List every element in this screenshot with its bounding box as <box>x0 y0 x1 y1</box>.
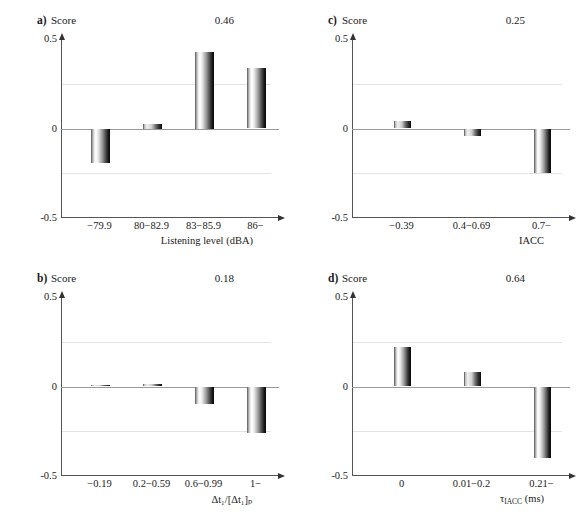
panel-b-bar-0 <box>91 385 110 387</box>
panel-b-ylabel: Score <box>51 272 76 284</box>
figure-container: a) Score 0.46 0.5 0 -0.5 −79.9 80−82.9 8… <box>0 0 582 521</box>
panel-b-ytick-0: 0.5 <box>44 292 57 303</box>
x-axis-arrow-icon <box>278 473 285 479</box>
panel-c-bar-2 <box>534 129 551 174</box>
x-axis-arrow-icon <box>569 215 576 221</box>
panel-c-x-axis <box>352 217 570 218</box>
panel-d-ylabel: Score <box>342 272 367 284</box>
panel-c-xtick-0: −0.39 <box>389 221 413 232</box>
panel-a-xtick-3: 86− <box>247 221 263 232</box>
panel-c-bar-1 <box>464 129 481 136</box>
y-axis-arrow-icon <box>59 33 65 40</box>
panel-a-letter: a) <box>37 14 47 26</box>
panel-b-bar-3 <box>247 387 266 434</box>
panel-c-ylabel: Score <box>342 14 367 26</box>
panel-a-gridline-neg025 <box>61 173 271 174</box>
panel-d-ytick-1: 0 <box>343 381 348 392</box>
panel-c-gridline-025 <box>352 84 562 85</box>
panel-d-x-axis <box>352 475 570 476</box>
panel-b: b) Score 0.18 0.5 0 -0.5 −0.19 0.2−0.59 … <box>0 258 291 518</box>
panel-c-letter: c) <box>328 14 337 26</box>
panel-a: a) Score 0.46 0.5 0 -0.5 −79.9 80−82.9 8… <box>0 0 291 260</box>
panel-a-bar-0 <box>91 129 110 163</box>
y-axis-arrow-icon <box>350 291 356 298</box>
x-axis-arrow-icon <box>569 473 576 479</box>
panel-b-bar-1 <box>143 384 162 387</box>
panel-a-ytick-0: 0.5 <box>44 34 57 45</box>
panel-d-plot: 0.5 0 -0.5 0 0.01−0.2 0.21− τIACC (ms) <box>352 297 552 476</box>
panel-c-xtick-2: 0.7− <box>532 221 551 232</box>
panel-c-header: c) Score 0.25 <box>291 0 582 22</box>
panel-a-xtick-1: 80−82.9 <box>134 221 169 232</box>
panel-c-plot: 0.5 0 -0.5 −0.39 0.4−0.69 0.7− IACC <box>352 39 552 218</box>
panel-d-xlabel: τIACC (ms) <box>500 493 544 504</box>
panel-d-gridline-025 <box>352 342 562 343</box>
x-axis-arrow-icon <box>278 215 285 221</box>
panel-b-letter: b) <box>37 272 47 284</box>
panel-c-xtick-1: 0.4−0.69 <box>453 221 490 232</box>
panel-a-ylabel: Score <box>51 14 76 26</box>
panel-b-gridline-025 <box>61 342 271 343</box>
panel-d-bar-0 <box>394 347 411 386</box>
panel-c-ytick-2: -0.5 <box>331 213 348 224</box>
panel-d-bar-1 <box>464 372 481 386</box>
panel-a-plot: 0.5 0 -0.5 −79.9 80−82.9 83−85.9 86− Lis… <box>61 39 261 218</box>
panel-a-ytick-1: 0 <box>52 123 57 134</box>
panel-b-xtick-2: 0.6−0.99 <box>185 479 222 490</box>
panel-c: c) Score 0.25 0.5 0 -0.5 −0.39 0.4−0.69 … <box>291 0 582 260</box>
panel-d-header: d) Score 0.64 <box>291 258 582 280</box>
panel-b-ytick-1: 0 <box>52 381 57 392</box>
panel-c-annotation: 0.25 <box>506 14 525 26</box>
panel-b-xlabel: Δt₁/[Δt₁]ₚ <box>211 493 253 505</box>
panel-d-ytick-2: -0.5 <box>331 471 348 482</box>
panel-a-bar-3 <box>247 68 266 129</box>
panel-c-ytick-0: 0.5 <box>335 34 348 45</box>
panel-c-xlabel: IACC <box>519 235 544 246</box>
panel-a-annotation: 0.46 <box>215 14 234 26</box>
panel-b-gridline-neg025 <box>61 431 271 432</box>
panel-d-gridline-neg025 <box>352 431 562 432</box>
panel-d-letter: d) <box>328 272 338 284</box>
panel-a-ytick-2: -0.5 <box>40 213 57 224</box>
panel-c-ytick-1: 0 <box>343 123 348 134</box>
panel-a-header: a) Score 0.46 <box>0 0 291 22</box>
panel-b-xtick-1: 0.2−0.59 <box>133 479 170 490</box>
panel-d-xtick-2: 0.21− <box>529 479 553 490</box>
panel-d-annotation: 0.64 <box>506 272 525 284</box>
panel-b-ytick-2: -0.5 <box>40 471 57 482</box>
panel-c-bar-0 <box>394 121 411 128</box>
panel-b-xtick-0: −0.19 <box>87 479 111 490</box>
panel-c-gridline-neg025 <box>352 173 562 174</box>
panel-b-bar-2 <box>195 387 214 405</box>
panel-d-xtick-1: 0.01−0.2 <box>453 479 490 490</box>
y-axis-arrow-icon <box>59 291 65 298</box>
panel-b-plot: 0.5 0 -0.5 −0.19 0.2−0.59 0.6−0.99 1− Δt… <box>61 297 261 476</box>
panel-a-bar-1 <box>143 124 162 129</box>
panel-d-bar-2 <box>534 387 551 459</box>
panel-d-xlabel-unit: (ms) <box>522 493 544 504</box>
panel-a-bar-2 <box>195 52 214 129</box>
panel-d: d) Score 0.64 0.5 0 -0.5 0 0.01−0.2 0.21… <box>291 258 582 518</box>
panel-a-x-axis <box>61 217 279 218</box>
figure-caption <box>34 512 564 521</box>
panel-d-xtick-0: 0 <box>399 479 404 490</box>
panel-b-annotation: 0.18 <box>215 272 234 284</box>
y-axis-arrow-icon <box>350 33 356 40</box>
panel-a-gridline-025 <box>61 84 271 85</box>
panel-a-xtick-0: −79.9 <box>87 221 111 232</box>
panel-b-xtick-3: 1− <box>250 479 261 490</box>
panel-d-ytick-0: 0.5 <box>335 292 348 303</box>
panel-d-xlabel-subscript: IACC <box>504 497 522 506</box>
panel-a-xlabel: Listening level (dBA) <box>161 235 253 246</box>
panel-a-xtick-2: 83−85.9 <box>186 221 221 232</box>
panel-b-header: b) Score 0.18 <box>0 258 291 280</box>
panel-b-x-axis <box>61 475 279 476</box>
